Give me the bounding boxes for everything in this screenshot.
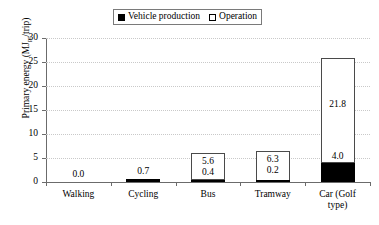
x-axis-line <box>46 182 371 183</box>
bar-segment-vehicle-production[interactable] <box>126 179 160 182</box>
chart-legend: Vehicle production Operation <box>113 9 262 25</box>
y-tick-label: 10 <box>8 129 38 139</box>
bar-value-label-operation: 5.6 <box>186 157 230 167</box>
bar-group[interactable] <box>321 58 355 182</box>
y-axis-title: Primary energy (MJpr/trip) <box>21 0 31 138</box>
bar-value-label-vehicle-production: 0.2 <box>251 166 295 176</box>
bar-group[interactable] <box>126 179 160 182</box>
bar-segment-vehicle-production[interactable] <box>321 163 355 182</box>
x-tick-mark <box>46 182 47 186</box>
y-tick-label: 15 <box>8 105 38 115</box>
x-tick-mark <box>240 182 241 186</box>
bar-segment-vehicle-production[interactable] <box>256 180 290 182</box>
legend-label-operation: Operation <box>219 12 257 22</box>
legend-swatch-open-square-icon <box>209 14 216 21</box>
y-tick-label: 20 <box>8 81 38 91</box>
x-axis-category-label: Car (Golf type) <box>298 189 378 211</box>
gridline <box>46 38 370 39</box>
legend-entry-vehicle-production: Vehicle production <box>118 12 200 22</box>
y-tick-label: 25 <box>8 57 38 67</box>
chart-container: Vehicle production Operation Primary ene… <box>0 0 379 225</box>
x-tick-mark <box>111 182 112 186</box>
y-tick-label: 30 <box>8 33 38 43</box>
bar-value-label-vehicle-production: 0.4 <box>186 168 230 178</box>
bar-value-label-vehicle-production: 4.0 <box>316 152 360 162</box>
legend-swatch-filled-square-icon <box>118 14 125 21</box>
bar-value-label-vehicle-production: 0.0 <box>56 170 100 180</box>
legend-label-vehicle-production: Vehicle production <box>128 12 200 22</box>
x-tick-mark <box>370 182 371 186</box>
y-tick-label: 5 <box>8 153 38 163</box>
bar-segment-vehicle-production[interactable] <box>191 180 225 182</box>
y-tick-label: 0 <box>8 177 38 187</box>
legend-entry-operation: Operation <box>209 12 257 22</box>
bar-value-label-vehicle-production: 0.7 <box>121 167 165 177</box>
bar-value-label-operation: 6.3 <box>251 155 295 165</box>
x-tick-mark <box>305 182 306 186</box>
bar-segment-operation[interactable] <box>321 58 355 163</box>
bar-value-label-operation: 21.8 <box>316 100 360 110</box>
x-tick-mark <box>176 182 177 186</box>
